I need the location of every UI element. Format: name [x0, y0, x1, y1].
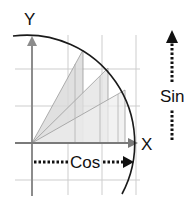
unit-circle-diagram: Y X Cos Sin	[0, 0, 195, 197]
cos-label: Cos	[70, 153, 100, 172]
sin-arrowhead-icon	[166, 30, 178, 43]
sin-arrow	[166, 30, 178, 140]
y-axis-arrow-icon	[27, 36, 37, 46]
x-axis-label: X	[141, 135, 152, 154]
sin-label: Sin	[160, 87, 185, 106]
y-axis-label: Y	[24, 10, 35, 29]
triangles	[32, 50, 125, 143]
y-axis	[27, 36, 37, 196]
